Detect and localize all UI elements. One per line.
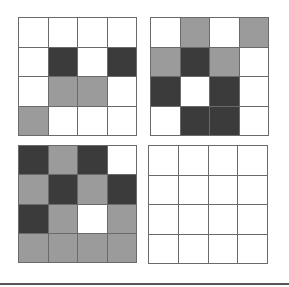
cell-white [238,235,267,264]
cell-white [149,235,178,264]
cell-dark [49,48,78,77]
cell-gray [49,77,78,106]
cell-gray [19,107,48,136]
cell-white [78,205,107,233]
cell-white [149,146,178,175]
cell-gray [210,48,239,77]
cell-gray [108,205,137,233]
cell-gray [78,234,107,262]
cell-gray [19,234,48,262]
cell-white [151,107,180,136]
cell-white [108,18,137,47]
cell-white [238,205,267,234]
cell-gray [49,205,78,233]
bottom-divider [0,283,289,285]
cell-white [179,176,208,205]
cell-white [209,235,238,264]
cell-white [78,107,107,136]
cell-white [179,235,208,264]
cell-white [78,48,107,77]
cell-dark [181,107,210,136]
cell-white [240,48,269,77]
cell-gray [49,146,78,174]
cell-gray [49,234,78,262]
cell-white [108,107,137,136]
cell-white [238,176,267,205]
cell-white [238,146,267,175]
cell-gray [151,48,180,77]
cell-white [240,107,269,136]
cell-dark [78,146,107,174]
grid-top-left [18,17,137,136]
cell-white [49,107,78,136]
cell-dark [151,77,180,106]
cell-white [240,77,269,106]
cell-white [19,77,48,106]
cell-white [108,77,137,106]
cell-white [149,205,178,234]
cell-dark [49,175,78,203]
cell-gray [240,18,269,47]
cell-gray [19,175,48,203]
grid-bottom-left [18,145,137,263]
cell-dark [19,205,48,233]
cell-white [149,176,178,205]
cell-white [209,176,238,205]
cell-white [209,205,238,234]
cell-gray [78,77,107,106]
grid-top-right [150,17,269,136]
cell-dark [181,48,210,77]
cell-white [19,48,48,77]
cell-dark [210,77,239,106]
cell-dark [108,175,137,203]
cell-gray [78,175,107,203]
cell-white [179,205,208,234]
cell-gray [181,18,210,47]
cell-dark [19,146,48,174]
cell-dark [210,107,239,136]
cell-white [78,18,107,47]
cell-white [181,77,210,106]
cell-white [108,146,137,174]
cell-white [49,18,78,47]
grid-bottom-right [148,145,268,264]
cell-white [210,18,239,47]
cell-white [19,18,48,47]
cell-white [179,146,208,175]
cell-white [209,146,238,175]
cell-gray [108,234,137,262]
cell-dark [108,48,137,77]
cell-white [151,18,180,47]
